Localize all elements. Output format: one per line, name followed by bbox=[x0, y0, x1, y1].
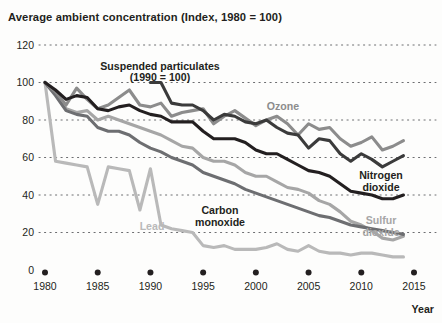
series-annotation-label: Carbon bbox=[201, 204, 238, 216]
series-annotation-label: Nitrogen bbox=[359, 169, 403, 181]
x-axis-tick-dot bbox=[253, 270, 259, 276]
x-axis-tick-label: 2015 bbox=[402, 280, 426, 292]
y-axis-tick-label: 20 bbox=[22, 226, 34, 238]
x-axis-tick-labels: 19801985199019952000200520102015 bbox=[33, 280, 426, 292]
y-axis-tick-label: 80 bbox=[22, 114, 34, 126]
x-axis-tick-marks bbox=[42, 270, 417, 276]
series-annotation-label: Lead bbox=[140, 220, 165, 232]
x-axis-tick-label: 2010 bbox=[350, 280, 374, 292]
chart-figure: Average ambient concentration (Index, 19… bbox=[0, 0, 442, 323]
x-axis-tick-label: 1990 bbox=[139, 280, 163, 292]
x-axis-tick-dot bbox=[42, 270, 48, 276]
chart-plot-area: 020406080100120 198019851990199520002005… bbox=[0, 0, 442, 323]
x-axis-tick-dot bbox=[306, 270, 312, 276]
x-axis-tick-dot bbox=[358, 270, 364, 276]
series-annotation-label: (1990 = 100) bbox=[130, 71, 190, 83]
x-axis-tick-dot bbox=[147, 270, 153, 276]
series-annotation-label: Ozone bbox=[267, 100, 299, 112]
series-annotation-label: Sulfur bbox=[366, 214, 397, 226]
x-axis-tick-label: 2000 bbox=[244, 280, 268, 292]
x-axis-tick-label: 1980 bbox=[33, 280, 57, 292]
series-annotations: Suspended particulates(1990 = 100)OzoneN… bbox=[100, 60, 403, 238]
x-axis-tick-dot bbox=[411, 270, 417, 276]
y-axis-tick-label: 120 bbox=[16, 39, 34, 51]
x-axis-tick-label: 1985 bbox=[86, 280, 110, 292]
y-axis-tick-label: 0 bbox=[28, 264, 34, 276]
x-axis-tick-label: 2005 bbox=[297, 280, 321, 292]
y-axis-tick-labels: 020406080100120 bbox=[16, 39, 34, 276]
x-axis-tick-dot bbox=[200, 270, 206, 276]
series-annotation-label: dioxide bbox=[362, 181, 399, 193]
x-axis-tick-dot bbox=[95, 270, 101, 276]
x-axis-title: Year bbox=[412, 303, 434, 315]
data-series-lines bbox=[45, 83, 403, 257]
y-axis-tick-label: 60 bbox=[22, 151, 34, 163]
x-axis-tick-label: 1995 bbox=[191, 280, 215, 292]
y-axis-tick-label: 40 bbox=[22, 189, 34, 201]
series-annotation-label: monoxide bbox=[195, 216, 245, 228]
series-annotation-label: dioxide bbox=[362, 226, 399, 238]
y-axis-tick-label: 100 bbox=[16, 76, 34, 88]
